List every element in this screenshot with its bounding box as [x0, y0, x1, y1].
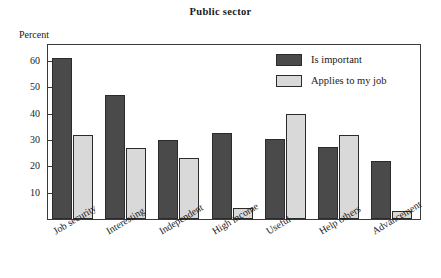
legend-item: Is important: [276, 51, 387, 68]
legend-label: Is important: [311, 54, 362, 65]
bar: [52, 58, 72, 219]
bar: [233, 208, 253, 219]
chart-title: Public sector: [0, 6, 441, 17]
y-tick-label: 20: [18, 161, 40, 171]
y-axis-title: Percent: [19, 29, 49, 40]
y-tick-label: 10: [18, 188, 40, 198]
bar: [392, 211, 412, 219]
bar: [318, 147, 338, 220]
chart-figure: Public sector Percent 102030405060 Job s…: [0, 0, 441, 278]
y-tick-label: 30: [18, 135, 40, 145]
y-tick-label: 60: [18, 56, 40, 66]
bar: [105, 95, 125, 219]
chart-legend: Is importantApplies to my job: [276, 51, 387, 93]
bar: [212, 133, 232, 219]
bar: [371, 161, 391, 219]
legend-item: Applies to my job: [276, 72, 387, 89]
y-tick-label: 40: [18, 109, 40, 119]
bar: [158, 140, 178, 219]
bar: [179, 158, 199, 219]
bar: [73, 135, 93, 219]
bar: [126, 148, 146, 219]
legend-swatch: [276, 54, 302, 66]
legend-swatch: [276, 75, 302, 87]
legend-label: Applies to my job: [311, 75, 387, 86]
bar: [286, 114, 306, 219]
bar: [265, 139, 285, 219]
y-tick-label: 50: [18, 82, 40, 92]
bar: [339, 135, 359, 219]
